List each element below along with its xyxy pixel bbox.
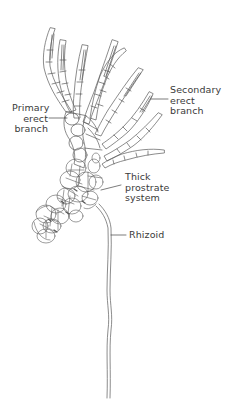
figure-canvas: Primary erect branch Secondary erect bra…	[0, 0, 226, 414]
leader-lines	[49, 99, 168, 235]
label-line: Thick	[125, 172, 169, 183]
label-rhizoid: Rhizoid	[129, 230, 164, 241]
label-line: Secondary	[170, 85, 221, 96]
label-line: system	[125, 193, 169, 204]
label-line: Primary	[12, 103, 48, 114]
label-line: branch	[170, 106, 221, 117]
label-line: branch	[12, 124, 48, 135]
prostrate-system	[32, 153, 103, 243]
alga-illustration	[0, 0, 226, 414]
label-line: Rhizoid	[129, 230, 164, 241]
rhizoid-filament	[96, 204, 112, 398]
label-primary-erect-branch: Primary erect branch	[12, 103, 48, 135]
label-secondary-erect-branch: Secondary erect branch	[170, 85, 221, 117]
erect-branches	[43, 28, 164, 168]
label-thick-prostrate-system: Thick prostrate system	[125, 172, 169, 204]
